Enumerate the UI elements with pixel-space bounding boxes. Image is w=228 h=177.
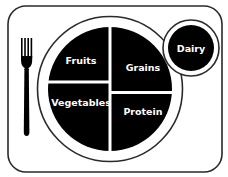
label-grains: Grains xyxy=(126,62,161,73)
label-fruits: Fruits xyxy=(66,55,97,66)
label-vegetables: Vegetables xyxy=(51,97,111,108)
label-protein: Protein xyxy=(123,106,162,117)
myplate-diagram: Fruits Grains Vegetables Protein Dairy xyxy=(0,0,228,177)
label-dairy: Dairy xyxy=(177,43,206,54)
